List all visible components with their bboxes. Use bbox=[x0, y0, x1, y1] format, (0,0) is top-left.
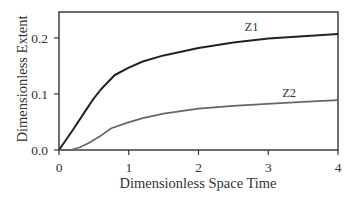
y-tick-label: 0.2 bbox=[31, 31, 48, 46]
x-tick-label: 3 bbox=[265, 160, 272, 175]
series-label-z2: Z2 bbox=[282, 86, 296, 100]
y-axis-title: Dimensionless Extent bbox=[14, 16, 30, 143]
y-axis-ticks: 0.00.10.2 bbox=[31, 31, 59, 158]
x-tick-label: 0 bbox=[56, 160, 63, 175]
x-tick-label: 1 bbox=[125, 160, 132, 175]
y-tick-label: 0.0 bbox=[31, 143, 48, 158]
y-tick-label: 0.1 bbox=[31, 87, 48, 102]
plot-frame bbox=[59, 12, 338, 150]
series-line-z2 bbox=[59, 100, 338, 150]
series-label-z1: Z1 bbox=[245, 20, 259, 34]
line-chart: 01234 0.00.10.2 Z1Z2 Dimensionless Space… bbox=[0, 0, 358, 201]
x-tick-label: 4 bbox=[335, 160, 342, 175]
series-lines bbox=[59, 34, 338, 150]
series-labels: Z1Z2 bbox=[245, 20, 297, 100]
x-axis-title: Dimensionless Space Time bbox=[119, 175, 276, 191]
x-tick-label: 2 bbox=[195, 160, 202, 175]
x-axis-ticks: 01234 bbox=[56, 150, 342, 175]
series-line-z1 bbox=[59, 34, 338, 150]
